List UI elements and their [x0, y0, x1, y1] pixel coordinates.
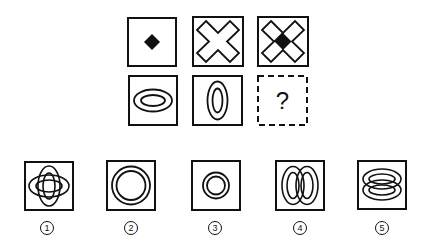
x-cross-with-diamond-icon: [257, 16, 309, 67]
option-4-label[interactable]: 4: [293, 221, 307, 235]
option-5-label[interactable]: 5: [375, 221, 389, 235]
option-3-figure[interactable]: [191, 160, 241, 211]
grid-cell-r1c3: [257, 16, 309, 67]
option-2-label[interactable]: 2: [124, 221, 138, 235]
option-5-figure[interactable]: [357, 160, 407, 210]
option-3-label[interactable]: 3: [208, 221, 222, 235]
grid-cell-r2c3-unknown: ?: [257, 75, 308, 126]
grid-cell-r2c2: [192, 75, 243, 126]
horizontal-double-ellipse-icon: [128, 75, 178, 126]
option-1-label[interactable]: 1: [40, 221, 54, 235]
hollow-x-cross-icon: [192, 16, 244, 67]
large-double-circle-icon: [106, 160, 156, 211]
filled-diamond-icon: [127, 17, 177, 67]
question-mark: ?: [257, 75, 308, 126]
option-2-figure[interactable]: [106, 160, 156, 211]
grid-cell-r1c1: [127, 17, 177, 67]
side-by-side-ellipses-icon: [275, 160, 325, 211]
option-1-figure[interactable]: [24, 161, 74, 211]
vertical-double-ellipse-icon: [192, 75, 243, 126]
grid-cell-r1c2: [192, 16, 244, 67]
small-double-circle-icon: [191, 160, 241, 211]
option-4-figure[interactable]: [275, 160, 325, 211]
grid-cell-r2c1: [128, 75, 178, 126]
stacked-ellipses-icon: [357, 160, 407, 210]
crossed-ellipses-icon: [24, 161, 74, 211]
